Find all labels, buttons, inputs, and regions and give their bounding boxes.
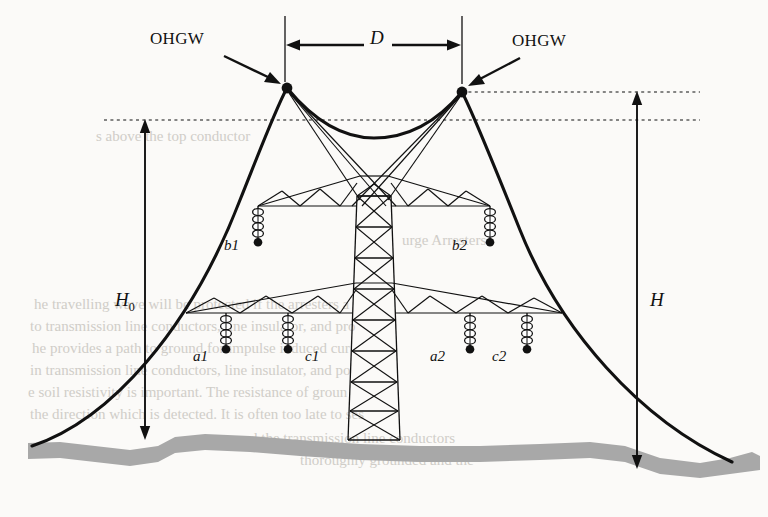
phase-label-c1: c1 — [305, 349, 319, 364]
height-h0-label: H0 — [115, 290, 135, 313]
insulator-string-b2 — [485, 206, 496, 247]
phase-label-b1: b1 — [224, 238, 239, 253]
phase-label-a1: a1 — [193, 349, 208, 364]
insulator-string-c1 — [283, 313, 294, 354]
height-h0-symbol: H — [115, 289, 129, 310]
ohgw-label-right: OHGW — [512, 32, 566, 49]
ohgw-left-span — [32, 88, 287, 446]
phase-label-b2: b2 — [452, 238, 467, 253]
ohgw-right-span — [462, 92, 732, 462]
insulator-string-b1 — [253, 206, 264, 247]
ohgw-right-arrowhead — [468, 74, 485, 86]
h-arrowhead-top — [632, 91, 642, 105]
height-h-label: H — [650, 290, 664, 309]
d-arrowhead-right — [447, 40, 461, 51]
dimension-h — [462, 91, 700, 469]
h0-arrowhead-top — [140, 119, 150, 133]
ohgw-label-left: OHGW — [150, 30, 204, 47]
ohgw-attachment-nodes — [282, 83, 468, 98]
ohgw-left-arrowhead — [264, 72, 281, 84]
h0-arrowhead-bottom — [140, 426, 150, 440]
overhead-ground-wire-spans — [32, 88, 732, 462]
transmission-tower-diagram — [0, 0, 768, 517]
d-arrowhead-left — [286, 40, 300, 51]
insulator-string-c2 — [522, 313, 533, 354]
phase-label-a2: a2 — [430, 349, 445, 364]
insulator-string-a1 — [221, 313, 232, 354]
figure-page: s above the top conductorurge Arrestersh… — [0, 0, 768, 517]
ohgw-left-node — [282, 83, 293, 94]
upper-crossarm — [258, 176, 490, 206]
dimension-h0 — [104, 119, 700, 440]
ohgw-callout-arrows — [224, 56, 520, 86]
insulator-string-a2 — [465, 313, 476, 354]
lower-crossarm — [186, 283, 562, 313]
insulator-strings — [221, 206, 533, 354]
phase-label-c2: c2 — [492, 349, 506, 364]
height-h0-subscript: 0 — [129, 300, 135, 314]
tower-top-bracing — [287, 90, 462, 206]
span-d-label: D — [370, 28, 384, 47]
